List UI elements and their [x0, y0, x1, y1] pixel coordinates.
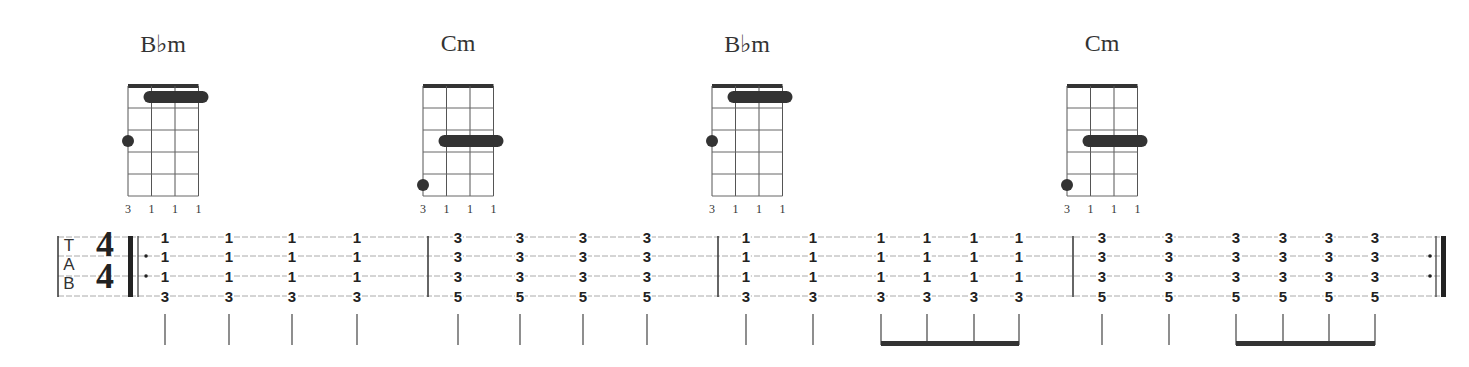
fret-number: 1 [876, 249, 886, 264]
repeat-end-thick [1441, 236, 1446, 297]
fret-number: 3 [1370, 269, 1380, 284]
fret-number: 1 [808, 249, 818, 264]
fret-number: 1 [1014, 249, 1024, 264]
fret-number: 3 [1014, 289, 1024, 304]
fret-number: 1 [1014, 230, 1024, 245]
fret-number: 5 [1231, 289, 1241, 304]
beam [881, 341, 1019, 346]
fret-number: 1 [352, 249, 362, 264]
fret-number: 3 [876, 289, 886, 304]
fret-number: 3 [453, 269, 463, 284]
fret-number: 3 [160, 289, 170, 304]
fret-number: 5 [642, 289, 652, 304]
fret-number: 3 [741, 289, 751, 304]
fret-number: 3 [515, 249, 525, 264]
clef-t: T [62, 236, 76, 255]
fret-number: 1 [287, 230, 297, 245]
fret-number: 3 [224, 289, 234, 304]
fret-number: 5 [1097, 289, 1107, 304]
fret-number: 3 [1370, 249, 1380, 264]
fret-number: 1 [224, 249, 234, 264]
fret-number: 3 [1278, 269, 1288, 284]
fret-number: 3 [578, 249, 588, 264]
fret-number: 5 [1324, 289, 1334, 304]
fret-number: 3 [1231, 269, 1241, 284]
fret-number: 3 [1231, 230, 1241, 245]
fret-number: 3 [1278, 230, 1288, 245]
fret-number: 3 [453, 249, 463, 264]
fret-number: 3 [1097, 269, 1107, 284]
fret-number: 5 [1164, 289, 1174, 304]
fret-number: 1 [160, 249, 170, 264]
fret-number: 1 [287, 249, 297, 264]
time-sig-bottom: 4 [90, 260, 120, 292]
fret-number: 1 [741, 249, 751, 264]
fret-number: 1 [160, 230, 170, 245]
tab-clef: T A B [62, 236, 76, 293]
clef-a: A [62, 255, 76, 274]
fret-number: 3 [578, 230, 588, 245]
fret-number: 3 [1324, 230, 1334, 245]
fret-number: 1 [741, 269, 751, 284]
fret-number: 3 [1278, 249, 1288, 264]
fret-number: 3 [1231, 249, 1241, 264]
fret-number: 5 [515, 289, 525, 304]
fret-number: 1 [160, 269, 170, 284]
fret-number: 1 [224, 230, 234, 245]
staff-lines [0, 0, 1469, 367]
fret-number: 3 [1164, 230, 1174, 245]
fret-number: 1 [224, 269, 234, 284]
fret-number: 1 [922, 249, 932, 264]
clef-b: B [62, 274, 76, 293]
fret-number: 5 [1278, 289, 1288, 304]
fret-number: 1 [741, 230, 751, 245]
time-signature: 4 4 [90, 228, 120, 292]
fret-number: 3 [969, 289, 979, 304]
fret-number: 3 [642, 230, 652, 245]
fret-number: 1 [808, 269, 818, 284]
fret-number: 3 [1097, 230, 1107, 245]
fret-number: 1 [922, 269, 932, 284]
fret-number: 3 [1097, 249, 1107, 264]
fret-number: 3 [515, 269, 525, 284]
fret-number: 1 [808, 230, 818, 245]
fret-number: 3 [642, 249, 652, 264]
fret-number: 3 [453, 230, 463, 245]
fret-number: 3 [1164, 249, 1174, 264]
fret-number: 1 [969, 269, 979, 284]
fret-number: 3 [922, 289, 932, 304]
fret-number: 5 [1370, 289, 1380, 304]
repeat-start-thick [128, 236, 133, 297]
fret-number: 1 [969, 230, 979, 245]
fret-number: 3 [1164, 269, 1174, 284]
fret-number: 1 [1014, 269, 1024, 284]
fret-number: 1 [287, 269, 297, 284]
fret-number: 1 [876, 269, 886, 284]
fret-number: 3 [287, 289, 297, 304]
fret-number: 1 [969, 249, 979, 264]
fret-number: 3 [515, 230, 525, 245]
fret-number: 3 [1324, 249, 1334, 264]
fret-number: 3 [642, 269, 652, 284]
fret-number: 5 [453, 289, 463, 304]
fret-number: 1 [352, 269, 362, 284]
fret-number: 1 [876, 230, 886, 245]
fret-number: 3 [1324, 269, 1334, 284]
fret-number: 1 [922, 230, 932, 245]
fret-number: 3 [808, 289, 818, 304]
fret-number: 3 [352, 289, 362, 304]
fret-number: 5 [578, 289, 588, 304]
fret-number: 3 [1370, 230, 1380, 245]
fret-number: 1 [352, 230, 362, 245]
beam [1236, 341, 1375, 346]
fret-number: 3 [578, 269, 588, 284]
